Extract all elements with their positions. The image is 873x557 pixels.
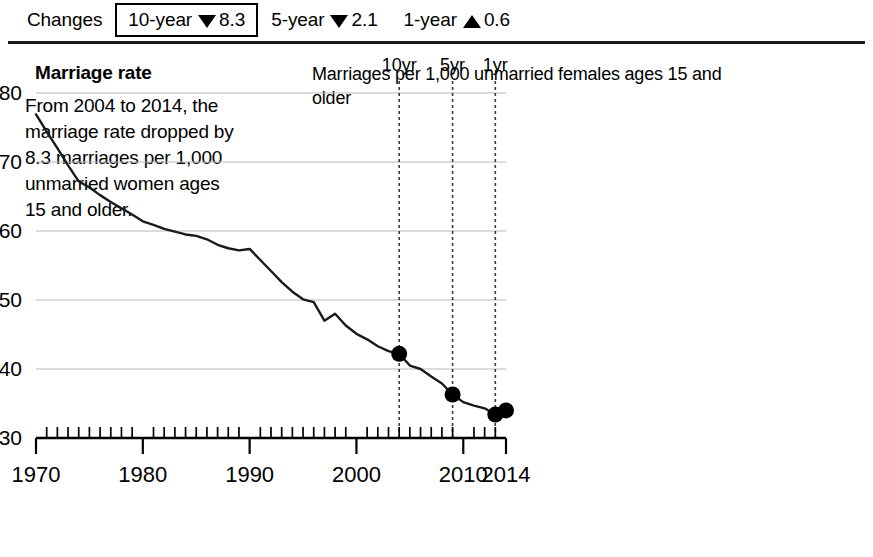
change-chip-period: 5-year bbox=[271, 9, 324, 31]
arrow-up-icon bbox=[463, 15, 481, 28]
y-axis-label: 30 bbox=[0, 426, 22, 449]
changes-bar: Changes 10-year 8.3 5-year 2.1 1-year 0.… bbox=[0, 0, 873, 46]
x-axis-label: 1970 bbox=[12, 462, 61, 487]
changes-label: Changes bbox=[27, 3, 115, 37]
y-axis-label: 40 bbox=[0, 357, 22, 380]
panel-body-text: From 2004 to 2014, the marriage rate dro… bbox=[25, 93, 240, 223]
change-chip-value: 8.3 bbox=[219, 9, 245, 31]
changes-divider bbox=[8, 41, 865, 44]
change-chip-period: 1-year bbox=[404, 9, 457, 31]
chart-title: Marriages per 1,000 unmarried females ag… bbox=[312, 62, 732, 110]
y-axis-label: 50 bbox=[0, 288, 22, 311]
change-chip-value: 2.1 bbox=[351, 9, 377, 31]
y-axis-label: 70 bbox=[0, 150, 22, 173]
arrow-down-icon bbox=[198, 15, 216, 28]
change-chip-value: 0.6 bbox=[484, 9, 510, 31]
y-axis-label: 60 bbox=[0, 219, 22, 242]
y-axis-label: 80 bbox=[0, 81, 22, 104]
data-point-marker bbox=[498, 402, 514, 418]
data-point-marker bbox=[487, 407, 503, 423]
x-axis-label: 2014 bbox=[482, 462, 531, 487]
changes-row: Changes 10-year 8.3 5-year 2.1 1-year 0.… bbox=[27, 3, 523, 37]
arrow-down-icon bbox=[330, 15, 348, 28]
change-chip-5-year[interactable]: 5-year 2.1 bbox=[258, 3, 390, 37]
panel-title: Marriage rate bbox=[35, 62, 275, 84]
x-axis-label: 2010 bbox=[439, 462, 488, 487]
description-panel: Marriage rate From 2004 to 2014, the mar… bbox=[25, 62, 275, 223]
change-chip-1-year[interactable]: 1-year 0.6 bbox=[391, 3, 523, 37]
chart-block: Marriages per 1,000 unmarried females ag… bbox=[312, 62, 873, 110]
x-axis-label: 2000 bbox=[332, 462, 381, 487]
change-chip-period: 10-year bbox=[128, 9, 192, 31]
change-chip-10-year[interactable]: 10-year 8.3 bbox=[115, 3, 258, 37]
data-point-marker bbox=[445, 387, 461, 403]
x-axis-label: 1990 bbox=[225, 462, 274, 487]
x-axis-label: 1980 bbox=[118, 462, 167, 487]
data-point-marker bbox=[391, 346, 407, 362]
